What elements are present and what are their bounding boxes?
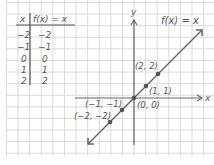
table-cell-x: 1 bbox=[21, 65, 27, 75]
function-label: f(x) = x bbox=[161, 15, 199, 26]
point-label-0: (0, 0) bbox=[137, 100, 160, 110]
x-axis-label: x bbox=[204, 93, 211, 103]
table-header-fx: f(x) = x bbox=[33, 14, 68, 24]
table-cell-fx: −2 bbox=[38, 30, 52, 40]
function-graph: x f(x) = x −2 −2 −1 −1 0 0 1 1 2 2 x y f… bbox=[0, 0, 214, 165]
table-cell-fx: 2 bbox=[42, 76, 48, 86]
value-table: x f(x) = x −2 −2 −1 −1 0 0 1 1 2 2 bbox=[16, 13, 75, 86]
point-0 bbox=[132, 96, 137, 101]
table-cell-x: 2 bbox=[21, 76, 27, 86]
table-cell-x: 0 bbox=[21, 54, 27, 64]
y-axis-label: y bbox=[130, 7, 137, 17]
point-label-1: (1, 1) bbox=[149, 86, 172, 96]
table-cell-fx: 0 bbox=[42, 54, 48, 64]
point-label-m2: (−2, −2) bbox=[74, 111, 111, 121]
point-1 bbox=[144, 84, 149, 89]
axes: x y bbox=[75, 7, 211, 145]
table-cell-x: −1 bbox=[17, 42, 30, 52]
table-cell-fx: 1 bbox=[42, 65, 48, 75]
point-label-m1: (−1, −1) bbox=[85, 99, 122, 109]
point-2 bbox=[156, 72, 161, 77]
table-cell-fx: −1 bbox=[38, 42, 51, 52]
point-label-2: (2, 2) bbox=[135, 61, 158, 71]
table-header-x: x bbox=[19, 14, 26, 24]
table-cell-x: −2 bbox=[17, 30, 31, 40]
